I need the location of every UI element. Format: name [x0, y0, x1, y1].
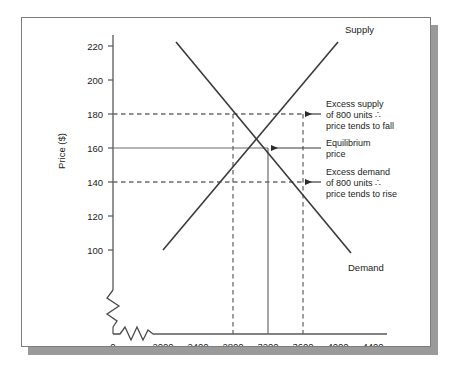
figure-plate: 220 200 180 160 140 120 100 Price ($) 0: [21, 17, 431, 347]
x-tick-label-3200: 3200: [257, 341, 278, 346]
y-axis-title: Price ($): [56, 133, 67, 169]
supply-demand-chart: 220 200 180 160 140 120 100 Price ($) 0: [22, 18, 430, 346]
guide-lines-group: [113, 114, 303, 334]
excess-supply-line-3: price tends to fall: [326, 121, 394, 131]
x-tick-label-4000: 4000: [327, 341, 348, 346]
annotation-equilibrium-price: Equilibrium price: [326, 138, 371, 159]
annotation-leaders-group: [271, 114, 321, 182]
excess-supply-line-2: of 800 units ∴: [326, 110, 381, 120]
annotation-excess-demand: Excess demand of 800 units ∴ price tends…: [326, 167, 397, 199]
x-tick-label-2000: 2000: [152, 341, 173, 346]
y-tick-label-100: 100: [87, 245, 103, 256]
demand-curve-label: Demand: [348, 262, 384, 273]
excess-demand-line-1: Excess demand: [326, 167, 390, 177]
figure-root: 220 200 180 160 140 120 100 Price ($) 0: [0, 0, 458, 386]
y-axis-break-icon: [107, 290, 119, 327]
y-tick-label-160: 160: [87, 143, 103, 154]
y-tick-label-180: 180: [87, 109, 103, 120]
y-tick-label-220: 220: [87, 41, 103, 52]
x-tick-label-4400: 4400: [362, 341, 383, 346]
y-tick-label-200: 200: [87, 75, 103, 86]
x-tick-label-2800: 2800: [222, 341, 243, 346]
excess-demand-line-2: of 800 units ∴: [326, 178, 381, 188]
excess-supply-line-1: Excess supply: [326, 99, 384, 109]
x-tick-group: 0 2000 2400 2800 3200 3600 4000 4400: [110, 341, 383, 346]
x-tick-label-2400: 2400: [187, 341, 208, 346]
equilibrium-line-1: Equilibrium: [326, 138, 371, 148]
supply-curve[interactable]: [163, 42, 338, 250]
y-tick-label-120: 120: [87, 211, 103, 222]
y-tick-label-140: 140: [87, 177, 103, 188]
x-origin-label: 0: [110, 341, 115, 346]
excess-demand-line-3: price tends to rise: [326, 189, 397, 199]
y-tick-group: 220 200 180 160 140 120 100: [87, 41, 113, 256]
x-axis-break-icon: [113, 327, 153, 340]
annotation-excess-supply: Excess supply of 800 units ∴ price tends…: [326, 99, 394, 131]
x-tick-label-3600: 3600: [292, 341, 313, 346]
equilibrium-line-2: price: [326, 149, 346, 159]
supply-curve-label: Supply: [345, 24, 374, 35]
